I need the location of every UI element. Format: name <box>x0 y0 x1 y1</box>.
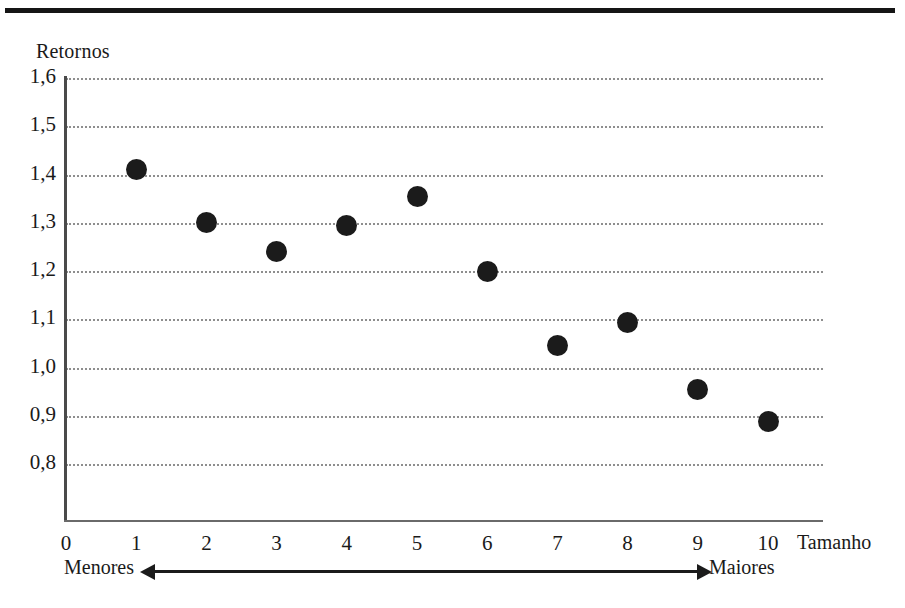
y-tick-label: 0,9 <box>30 402 56 427</box>
gridline <box>66 368 823 370</box>
data-point <box>336 215 357 236</box>
x-tick-label: 6 <box>467 531 507 556</box>
x-axis-line <box>64 520 823 522</box>
y-axis-line <box>64 76 67 522</box>
y-tick-label-group: 1,61,51,41,31,21,11,00,90,8 <box>0 0 56 608</box>
gridline <box>66 319 823 321</box>
gridline <box>66 126 823 128</box>
annotation-label-smaller: Menores <box>64 556 134 579</box>
y-tick-label: 0,8 <box>30 450 56 475</box>
plot-area <box>66 70 823 520</box>
x-axis-title: Tamanho <box>797 531 871 554</box>
x-tick-label: 0 <box>46 531 86 556</box>
x-tick-label: 10 <box>748 531 788 556</box>
y-tick-label: 1,3 <box>30 209 56 234</box>
gridline <box>66 271 823 273</box>
data-point <box>196 212 217 233</box>
x-tick-label: 5 <box>397 531 437 556</box>
gridline <box>66 223 823 225</box>
data-point <box>758 411 779 432</box>
axis-direction-annotation: Menores Maiores <box>0 556 905 588</box>
gridline <box>66 175 823 177</box>
y-tick-label: 1,4 <box>30 161 56 186</box>
y-tick-label: 1,1 <box>30 305 56 330</box>
gridline <box>66 78 823 80</box>
data-point <box>477 261 498 282</box>
gridline <box>66 464 823 466</box>
x-tick-label: 9 <box>678 531 718 556</box>
x-tick-label: 8 <box>608 531 648 556</box>
gridline <box>66 416 823 418</box>
y-tick-label: 1,6 <box>30 64 56 89</box>
data-point <box>126 159 147 180</box>
data-point <box>407 186 428 207</box>
x-tick-label: 7 <box>537 531 577 556</box>
x-tick-label: 2 <box>186 531 226 556</box>
y-tick-label: 1,0 <box>30 354 56 379</box>
x-tick-label: 4 <box>327 531 367 556</box>
x-tick-label: 1 <box>116 531 156 556</box>
scatter-chart-figure: Retornos 1,61,51,41,31,21,11,00,90,8 Tam… <box>0 0 905 608</box>
y-tick-label: 1,5 <box>30 112 56 137</box>
x-tick-label: 3 <box>257 531 297 556</box>
y-tick-label: 1,2 <box>30 257 56 282</box>
arrow-shaft-icon <box>148 570 704 573</box>
annotation-label-larger: Maiores <box>709 556 775 579</box>
data-point <box>687 379 708 400</box>
